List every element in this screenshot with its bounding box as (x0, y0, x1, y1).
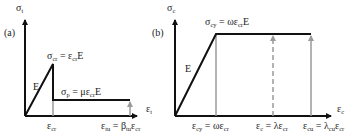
peak-label-a: σcr = εcrE (47, 50, 83, 62)
panel-a-tag: (a) (4, 27, 15, 39)
x-tick-cy-b: εcy = ωεcr (192, 120, 230, 132)
panel-b-tag: (b) (152, 27, 164, 39)
x-tick-tu-a: εtu = βtuεcr (101, 120, 141, 132)
x-axis-label-b: εc (337, 103, 344, 115)
x-tick-c-b: εc = λεcr (256, 120, 289, 132)
panel-b: (b) σc εc E σcy = ωεcrE εcy = ωεcr εc = … (152, 2, 345, 132)
y-axis-label-b: σc (167, 2, 175, 14)
x-axis-label-a: εt (146, 103, 152, 115)
panel-a: (a) σt εt E σcr = εcrE σp = μεcrE εcr εt… (4, 2, 152, 132)
plateau-label-a: σp = μεcrE (61, 86, 101, 98)
peak-label-b: σcy = ωεcrE (205, 16, 249, 28)
stress-curve-b (175, 34, 311, 116)
stress-strain-diagram: (a) σt εt E σcr = εcrE σp = μεcrE εcr εt… (0, 0, 355, 136)
x-tick-cr-a: εcr (47, 120, 57, 132)
slope-label-b: E (185, 63, 191, 74)
slope-label-a: E (33, 81, 39, 92)
y-axis-label-a: σt (16, 2, 23, 14)
x-tick-cu-b: εcu = λcuεcr (303, 120, 345, 132)
